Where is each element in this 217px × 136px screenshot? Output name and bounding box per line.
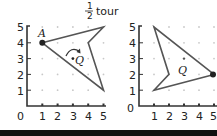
y-labels: 5 4 3 2 1 [129, 21, 136, 98]
fraction-denominator: 2 [87, 11, 93, 21]
svg-text:4: 4 [85, 110, 92, 123]
svg-text:1: 1 [39, 110, 46, 123]
rotated-vertex-point [210, 71, 216, 77]
x-labels: 0 1 2 3 4 5 [17, 110, 107, 123]
left-graph: 5 4 3 2 1 0 1 2 3 4 5 A Q [17, 21, 107, 123]
center-q-point [72, 57, 75, 60]
svg-text:3: 3 [17, 53, 24, 66]
right-graph: 5 4 3 2 1 0 1 2 3 4 5 Q [127, 21, 217, 123]
svg-text:4: 4 [129, 37, 136, 50]
svg-text:0: 0 [17, 110, 24, 123]
svg-text:5: 5 [210, 110, 217, 123]
bottom-divider [0, 130, 217, 136]
center-q-label: Q [75, 54, 84, 67]
svg-text:4: 4 [17, 37, 24, 50]
svg-text:5: 5 [100, 110, 107, 123]
vertex-a-point [39, 40, 45, 46]
svg-text:2: 2 [166, 110, 173, 123]
svg-text:5: 5 [17, 21, 24, 34]
svg-text:2: 2 [54, 110, 61, 123]
svg-text:2: 2 [129, 69, 136, 82]
y-labels: 5 4 3 2 1 [17, 21, 24, 98]
svg-text:3: 3 [181, 110, 188, 123]
svg-text:0: 0 [127, 102, 134, 115]
svg-text:3: 3 [70, 110, 77, 123]
rotation-diagram: 1 2 tour 5 4 3 2 1 [0, 0, 217, 136]
svg-text:5: 5 [129, 21, 136, 34]
x-labels: 0 1 2 3 4 5 [127, 102, 217, 123]
center-q-point [183, 57, 185, 59]
center-q-label: Q [178, 64, 187, 77]
svg-text:1: 1 [17, 85, 24, 98]
fraction-numerator: 1 [87, 1, 93, 11]
svg-text:3: 3 [129, 53, 136, 66]
svg-text:1: 1 [151, 110, 158, 123]
title: 1 2 tour [85, 1, 119, 21]
svg-text:1: 1 [129, 85, 136, 98]
vertex-a-label: A [37, 27, 46, 40]
svg-text:2: 2 [17, 69, 24, 82]
title-word: tour [96, 5, 119, 18]
svg-text:4: 4 [196, 110, 203, 123]
